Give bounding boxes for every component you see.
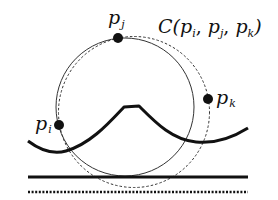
dashed-circle (59, 37, 210, 188)
point-p-i (54, 120, 64, 130)
point-p-j (113, 33, 123, 43)
label-p-j: pj (108, 6, 125, 31)
label-p-k: pk (216, 86, 236, 110)
point-p-k (203, 94, 213, 104)
label-circle: C(pi, pj, pk) (158, 15, 262, 40)
circle-diagram: pj C(pi, pj, pk) pk pi (0, 0, 278, 200)
label-p-i: pi (35, 112, 52, 136)
